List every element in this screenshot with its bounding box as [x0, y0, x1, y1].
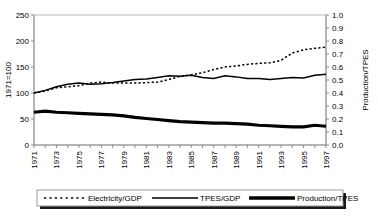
x-tick-label: 1991 — [255, 150, 264, 168]
legend-label-1: Electricity/GDP — [88, 194, 142, 203]
x-tick-label: 1971 — [30, 150, 39, 168]
y-tick-label: 100 — [16, 89, 30, 98]
y-tick-label: 150 — [16, 63, 30, 72]
legend-label-3: Production/TPES — [297, 194, 358, 203]
legend-label-2: TPES/GDP — [200, 194, 240, 203]
x-tick-label: 1985 — [187, 150, 196, 168]
y2-tick-label: 0.0 — [332, 141, 344, 150]
y-tick-label: 250 — [16, 11, 30, 20]
chart-figure: 050100150200250 0.00.10.20.30.40.50.60.7… — [0, 0, 378, 218]
x-tick-label: 1993 — [277, 150, 286, 168]
y-tick-label: 50 — [20, 115, 29, 124]
y2-tick-label: 1.0 — [332, 11, 344, 20]
x-tick-label: 1979 — [120, 150, 129, 168]
y2-tick-label: 0.8 — [332, 37, 344, 46]
y2-tick-label: 0.7 — [332, 50, 344, 59]
y-axis-right-title: Production/TPES — [361, 49, 370, 110]
x-tick-label: 1983 — [165, 150, 174, 168]
x-tick-label: 1981 — [142, 150, 151, 168]
y2-tick-label: 0.5 — [332, 76, 344, 85]
x-tick-label: 1987 — [210, 150, 219, 168]
x-tick-label: 1989 — [232, 150, 241, 168]
x-tick-label: 1997 — [322, 150, 331, 168]
y-tick-label: 200 — [16, 37, 30, 46]
y2-tick-label: 0.2 — [332, 115, 344, 124]
y2-tick-label: 0.4 — [332, 89, 344, 98]
y2-tick-label: 0.1 — [332, 128, 344, 137]
y2-tick-label: 0.9 — [332, 24, 344, 33]
x-tick-label: 1995 — [300, 150, 309, 168]
chart-legend: Electricity/GDPTPES/GDPProduction/TPES — [37, 190, 358, 209]
y-axis-left-title: 1971=100 — [4, 62, 13, 98]
y-tick-label: 0 — [25, 141, 30, 150]
x-tick-label: 1977 — [97, 150, 106, 168]
y2-tick-label: 0.6 — [332, 63, 344, 72]
x-tick-label: 1973 — [52, 150, 61, 168]
figure-background — [0, 0, 378, 218]
x-tick-label: 1975 — [75, 150, 84, 168]
y2-tick-label: 0.3 — [332, 102, 344, 111]
